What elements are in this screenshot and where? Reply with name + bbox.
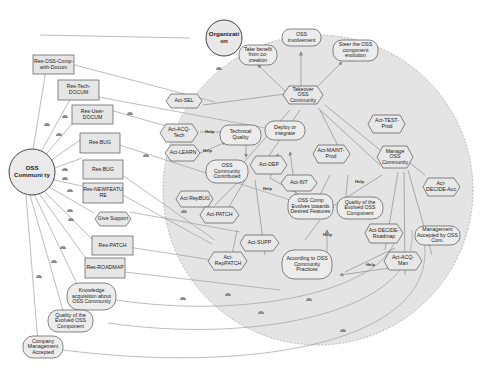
res-tech-docum-label: Res-Tech-DOCUM (58, 80, 99, 100)
res-newfeature-label: Res-NEWFEATU RE (83, 183, 123, 203)
act-reppatch-label: Act-RepPATCH (212, 252, 244, 270)
act-supp-label: Act-SUPP (243, 235, 276, 251)
act-dep-label: Act-DEP (254, 156, 284, 174)
oss-comp-evolves-label: OSS Comp Evolves towards Desired Feature… (290, 194, 331, 219)
give-support-label: Give Support (97, 212, 129, 226)
oss-involvement-label: OSS involvement (284, 29, 319, 46)
act-int-label: Act-INT (285, 175, 313, 191)
res-bug-1-label: Res-BUG (80, 133, 120, 153)
quality-evolved-outer-label: Quality of the Evolved OSS Component (50, 310, 91, 332)
act-decide-roadmap-label: Act-DECIDE-Roadmap (368, 224, 400, 243)
istar-diagram: Organizati on OSS Communi ty Res-OSS-Com… (0, 0, 482, 374)
quality-evolved-inner-label: Quality of the Evolved OSS Component (339, 197, 381, 219)
takeover-label: Takeover OSS Community (287, 86, 319, 104)
res-bug-2-label: Res-BUG (83, 160, 123, 179)
act-test-prod-label: Act-TEST-Prod (372, 115, 402, 133)
act-acq-man-label: Act-ACQ-Man (388, 252, 418, 270)
tech-quality-label: Technical Quality (222, 125, 259, 145)
act-sel-label: Act-SEL (168, 94, 200, 108)
help-label: Help (366, 262, 375, 267)
deploy-integrate-label: Deploy or integrate (267, 121, 303, 140)
act-acq-tech-label: Act-ACQ-Tech (164, 124, 194, 142)
act-maint-prod-label: Act-MAINT-Prod (316, 145, 346, 163)
oss-community-label: OSS Communi ty (12, 158, 52, 186)
act-repbug-label: Act-RepBUG (179, 191, 211, 207)
company-mgmt-label: Company Management Accepted (25, 336, 61, 358)
res-oss-comp-with-docum-label: Res-OSS-Comp-with-Docum (33, 55, 74, 74)
act-decide-acc-label: Act-DECIDE-Acc (426, 178, 456, 196)
help-label: Help (203, 148, 212, 153)
according-practices-label: According to OSS Community Practices (284, 250, 330, 279)
organization-label: Organizati on (208, 28, 240, 48)
act-learn-label: Act-LEARN (168, 145, 198, 161)
res-user-docum-label: Res-User-DOCUM (72, 105, 113, 124)
knowledge-acq-label: Knowledge acquisition about OSS Communit… (69, 283, 114, 310)
manage-oss-label: Manage OSS Community (381, 146, 409, 168)
oss-contributed-label: OSS Community Contributed (208, 160, 246, 183)
take-benefit-label: Take benefit from co-creation (240, 45, 276, 65)
res-patch-label: Res-PATCH (92, 236, 133, 255)
help-label: Help (323, 232, 332, 237)
steer-label: Steer the OSS component evolution (335, 40, 376, 61)
mgmt-accepted-inner-label: Management Accepted by OSS Com. (417, 226, 458, 245)
act-patch-label: Act-PATCH (203, 207, 236, 223)
res-roadmap-label: Res-ROADMAP (85, 258, 125, 278)
help-label: Help (355, 179, 364, 184)
help-label: Help (205, 129, 214, 134)
help-label: Help (263, 186, 272, 191)
